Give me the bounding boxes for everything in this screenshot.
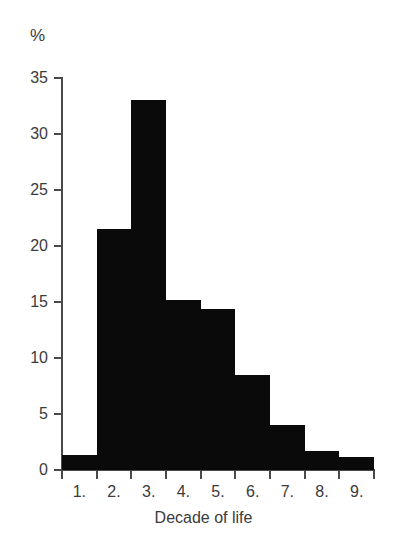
y-tick-mark: [54, 245, 62, 247]
y-axis-unit-label: %: [30, 26, 45, 46]
x-axis-title: Decade of life: [0, 509, 407, 527]
x-tick-mark: [269, 470, 271, 479]
y-tick-mark: [54, 413, 62, 415]
x-tick-mark: [96, 470, 98, 479]
histogram-bar: [235, 375, 270, 470]
x-tick-mark: [130, 470, 132, 479]
y-tick-mark: [54, 301, 62, 303]
y-tick-mark: [54, 133, 62, 135]
plot-area: [62, 78, 374, 470]
y-tick-label: 30: [8, 126, 48, 142]
y-tick-label: 35: [8, 70, 48, 86]
y-tick-label: 0: [8, 462, 48, 478]
x-tick-mark: [338, 470, 340, 479]
y-tick-label: 5: [8, 406, 48, 422]
histogram-bar: [62, 455, 97, 470]
x-tick-mark: [61, 470, 63, 479]
histogram-figure: % 05101520253035 1.2.3.4.5.6.7.8.9. Deca…: [0, 0, 407, 551]
y-tick-label: 25: [8, 182, 48, 198]
histogram-bar: [339, 457, 374, 470]
y-tick-label: 15: [8, 294, 48, 310]
x-tick-mark: [373, 470, 375, 479]
histogram-bar: [201, 309, 236, 470]
y-tick-label: 20: [8, 238, 48, 254]
x-tick-mark: [304, 470, 306, 479]
histogram-bar: [166, 300, 201, 470]
histogram-bar: [305, 451, 340, 470]
x-tick-mark: [200, 470, 202, 479]
y-tick-label: 10: [8, 350, 48, 366]
y-tick-mark: [54, 357, 62, 359]
y-tick-mark: [54, 77, 62, 79]
x-tick-mark: [234, 470, 236, 479]
x-tick-mark: [165, 470, 167, 479]
y-tick-mark: [54, 189, 62, 191]
histogram-bar: [97, 229, 132, 470]
histogram-bar: [131, 100, 166, 470]
x-tick-label: 9.: [337, 484, 377, 500]
histogram-bar: [270, 425, 305, 470]
